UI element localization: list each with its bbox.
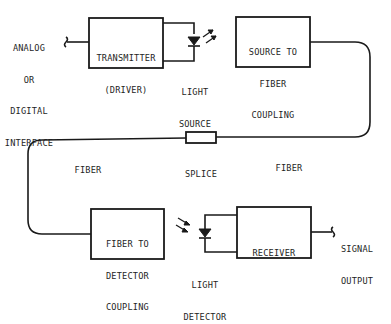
detector-top-wire: [205, 215, 237, 229]
input-label-line: ANALOG: [0, 43, 58, 54]
splice-label-text: SPLICE: [181, 169, 221, 180]
transmitter-label-line: (DRIVER): [89, 85, 163, 96]
detector-coupling-label-line: FIBER TO: [91, 239, 164, 250]
receiver-label: RECEIVER: [237, 227, 311, 269]
light-detector-label: LIGHT DETECTOR: [180, 259, 230, 324]
output-label: SIGNAL OUTPUT: [341, 223, 389, 297]
fiber-right-label: FIBER: [269, 142, 309, 184]
detector-coupling-label-line: DETECTOR: [91, 271, 164, 282]
fiber-left-label: FIBER: [68, 144, 108, 186]
fiber-left-label-text: FIBER: [68, 165, 108, 176]
detector-bottom-wire: [205, 238, 237, 252]
light-source-label: LIGHT SOURCE: [172, 66, 218, 140]
light-source-label-line: SOURCE: [172, 119, 218, 130]
input-label-line: OR: [0, 75, 58, 86]
light-detector-label-line: LIGHT: [180, 280, 230, 291]
output-label-line: OUTPUT: [341, 276, 389, 287]
led-top-wire: [163, 23, 194, 34]
detector-coupling-label-line: COUPLING: [91, 302, 164, 313]
fiber-right-label-text: FIBER: [269, 163, 309, 174]
light-source-diode-icon: [188, 30, 216, 46]
detector-coupling-label: FIBER TO DETECTOR COUPLING: [91, 218, 164, 323]
splice-label: SPLICE: [181, 148, 221, 190]
input-label-line: DIGITAL: [0, 106, 58, 117]
light-source-label-line: LIGHT: [172, 87, 218, 98]
receiver-label-line: RECEIVER: [237, 248, 311, 259]
input-label-line: INTERFACE: [0, 138, 58, 149]
input-label: ANALOG OR DIGITAL INTERFACE: [0, 22, 58, 159]
light-detector-label-line: DETECTOR: [180, 312, 230, 323]
source-coupling-label: SOURCE TO FIBER COUPLING: [236, 26, 310, 131]
source-coupling-label-line: SOURCE TO: [236, 47, 310, 58]
source-coupling-label-line: COUPLING: [236, 110, 310, 121]
led-bottom-wire: [163, 46, 194, 61]
output-squiggle-icon: [332, 227, 335, 237]
transmitter-label-line: TRANSMITTER: [89, 53, 163, 64]
source-coupling-label-line: FIBER: [236, 79, 310, 90]
transmitter-label: TRANSMITTER (DRIVER): [89, 32, 163, 106]
output-label-line: SIGNAL: [341, 244, 389, 255]
